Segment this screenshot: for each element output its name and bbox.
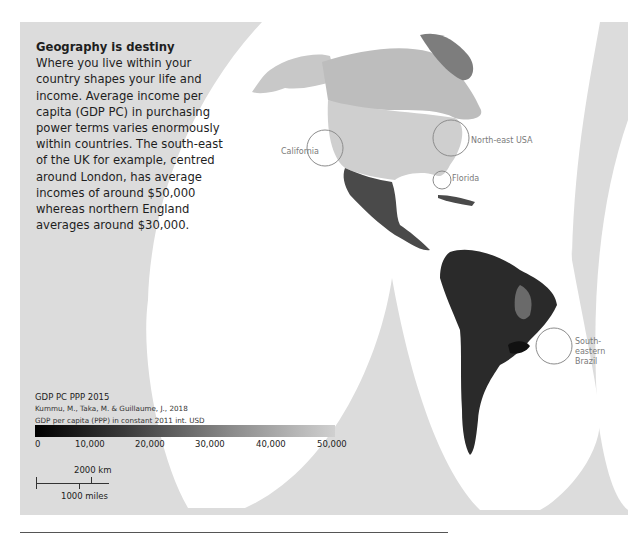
legend-tick-10000: 10,000	[75, 439, 105, 449]
legend-tick-40000: 40,000	[256, 439, 286, 449]
intro-text-block: Geography is destiny Where you live with…	[36, 39, 236, 233]
legend-tick-20000: 20,000	[135, 439, 165, 449]
intro-title: Geography is destiny	[36, 39, 236, 55]
bottom-divider	[20, 532, 448, 533]
legend-tick-0: 0	[35, 439, 40, 449]
legend-unit: GDP per capita (PPP) in constant 2011 in…	[35, 416, 205, 425]
callout-label-se-brazil: South-eastern Brazil	[575, 337, 628, 367]
scale-label-miles: 1000 miles	[61, 491, 108, 501]
callout-label-se-brazil-line1: South-eastern	[575, 337, 628, 357]
callout-label-florida: Florida	[452, 174, 479, 184]
legend-title: GDP PC PPP 2015	[35, 392, 109, 402]
legend-source: Kummu, M., Taka, M. & Guillaume, J., 201…	[35, 404, 188, 413]
callout-label-se-brazil-line2: Brazil	[575, 357, 628, 367]
scale-km-tick	[91, 477, 92, 483]
legend-tick-50000: 50,000	[317, 439, 347, 449]
intro-body: Where you live within your country shape…	[36, 56, 223, 232]
callout-label-california: California	[281, 147, 319, 157]
legend-tick-30000: 30,000	[195, 439, 225, 449]
legend-color-gradient	[35, 425, 335, 437]
ocean-gore-right	[595, 120, 628, 510]
scale-miles-tick	[79, 483, 80, 489]
scale-label-km: 2000 km	[74, 465, 112, 475]
callout-label-northeast-usa: North-east USA	[471, 136, 533, 146]
scale-bar	[36, 483, 109, 484]
